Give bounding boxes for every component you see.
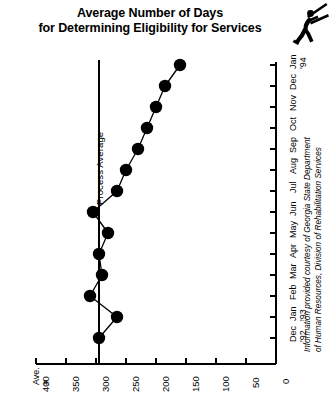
value-tick-label: 150	[191, 376, 201, 392]
data-point	[84, 290, 96, 302]
title-line-2: for Determining Eligibility for Services	[0, 21, 300, 36]
category-label-jun: Jun	[288, 201, 298, 216]
value-axis-title: Ave.	[31, 367, 41, 385]
data-point	[150, 101, 162, 113]
attribution-line-1: Information provided courtesy of Georgia…	[303, 137, 313, 352]
data-point	[174, 59, 186, 71]
page-title: Average Number of Days for Determining E…	[0, 6, 300, 36]
value-axis-title-line1: Ave.	[31, 367, 41, 385]
process-average-label: Process Average	[95, 132, 105, 205]
category-label-jan-93: Jan	[288, 306, 298, 321]
category-label-dec-92: Dec	[288, 326, 298, 342]
data-point	[159, 80, 171, 92]
title-line-1: Average Number of Days	[0, 6, 300, 21]
data-point	[93, 248, 105, 260]
attribution-line-2: of Human Resources, Division of Rehabili…	[314, 147, 324, 352]
runner-javelin-icon	[286, 2, 330, 46]
value-axis-title-line2: #	[41, 380, 51, 385]
category-label-oct: Oct	[288, 117, 298, 131]
data-point	[111, 311, 123, 323]
category-label-nov: Nov	[288, 95, 298, 111]
category-label-feb: Feb	[288, 284, 298, 300]
category-label-jan-94-year: '94	[298, 57, 308, 69]
category-label-sep: Sep	[288, 137, 298, 153]
data-point	[141, 122, 153, 134]
value-tick-label: 0	[281, 379, 291, 384]
plot-area	[0, 0, 332, 397]
category-label-jan-94: Jan	[288, 54, 298, 69]
data-point	[132, 143, 144, 155]
chart-page: Average Number of Days for Determining E…	[0, 0, 332, 397]
data-point	[87, 206, 99, 218]
category-axis	[270, 62, 276, 364]
value-tick-label: 250	[131, 376, 141, 392]
value-tick-label: 100	[221, 376, 231, 392]
data-point	[120, 164, 132, 176]
category-label-aug: Aug	[288, 158, 298, 174]
category-label-jul: Jul	[288, 181, 298, 193]
data-point	[111, 185, 123, 197]
category-label-mar: Mar	[288, 264, 298, 280]
value-tick-label: 350	[71, 376, 81, 392]
value-tick-label: 50	[251, 377, 261, 388]
value-axis	[36, 356, 276, 364]
data-point	[93, 332, 105, 344]
category-label-dec: Dec	[288, 74, 298, 90]
value-tick-label: 200	[161, 376, 171, 392]
data-point	[96, 269, 108, 281]
value-tick-label: 300	[101, 376, 111, 392]
category-label-may: May	[288, 221, 298, 238]
data-point	[102, 227, 114, 239]
category-label-apr: Apr	[288, 244, 298, 258]
